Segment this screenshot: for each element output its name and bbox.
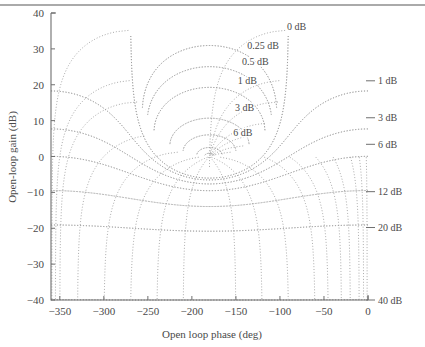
contour-label: 0.5 dB <box>242 56 269 67</box>
x-tick-labels: −350−300−250−200−150−100−500 <box>48 305 371 317</box>
y-axis-title: Open-loop gain (dB) <box>6 111 19 203</box>
n-contour-neg10 <box>351 157 360 299</box>
grid-contours <box>51 30 368 300</box>
x-tick-label: −150 <box>225 305 248 317</box>
axis-spines <box>51 13 368 300</box>
n-contour-neg270 <box>131 157 199 299</box>
contour-label: 1 dB <box>238 75 258 86</box>
n-contour-neg45 <box>290 157 328 299</box>
y-tick-label: −20 <box>27 222 45 234</box>
x-tick-label: 0 <box>365 305 371 317</box>
contour-label: 6 dB <box>233 127 253 138</box>
n-contour-neg150 <box>210 157 236 299</box>
m-contour-mirror-neg3 <box>51 129 368 184</box>
n-contour-neg359 <box>52 30 128 299</box>
n-contour-neg30 <box>316 157 341 299</box>
contour-label: 3 dB <box>378 112 398 123</box>
x-tick-label: −300 <box>92 305 115 317</box>
contour-label: 0.25 dB <box>247 40 279 51</box>
nichols-chart-figure: −350−300−250−200−150−100−500 −40−30−20−1… <box>0 0 425 347</box>
contour-annotations: 0 dB0 dB0.25 dB0.25 dB0.5 dB0.5 dB1 dB1 … <box>233 21 402 305</box>
n-contour-neg240 <box>157 157 207 299</box>
y-tick-labels: −40−30−20−10010203040 <box>27 7 45 306</box>
n-contour-neg350 <box>60 102 137 299</box>
y-tick-label: 40 <box>33 7 45 19</box>
y-tick-label: 20 <box>33 79 45 91</box>
m-contour-neg3 <box>51 129 368 184</box>
y-tick-label: −40 <box>27 294 45 306</box>
m-contour-neg12 <box>51 191 368 207</box>
axis-ticks <box>51 13 368 300</box>
contour-label: 40 dB <box>378 295 403 306</box>
y-tick-label: −30 <box>27 258 45 270</box>
n-contour-neg330 <box>78 136 144 299</box>
n-contour-neg5 <box>359 157 363 299</box>
contour-label: 0 dB <box>287 21 307 32</box>
x-tick-label: −100 <box>269 305 292 317</box>
contour-label: 12 dB <box>378 186 403 197</box>
x-tick-label: −50 <box>315 305 333 317</box>
x-axis-title: Open loop phase (deg) <box>162 328 262 341</box>
x-tick-label: −250 <box>137 305 160 317</box>
n-contour-neg5 <box>210 81 280 156</box>
y-tick-label: 30 <box>33 43 45 55</box>
x-tick-label: −350 <box>48 305 71 317</box>
n-contour-neg20 <box>333 157 350 299</box>
y-tick-label: 10 <box>33 115 45 127</box>
x-tick-label: −200 <box>181 305 204 317</box>
n-contour-neg210 <box>183 157 209 299</box>
m-contour-mirror-neg6 <box>51 156 368 190</box>
contour-label: 20 dB <box>378 222 403 233</box>
n-contour-neg300 <box>104 152 177 299</box>
n-contour-neg90 <box>220 157 288 299</box>
contour-label: 6 dB <box>378 139 398 150</box>
contour-label: 3 dB <box>235 102 255 113</box>
y-tick-label: −10 <box>27 186 45 198</box>
n-contour-neg355 <box>55 81 129 299</box>
nichols-chart-canvas: −350−300−250−200−150−100−500 −40−30−20−1… <box>0 0 425 347</box>
m-contour-neg6 <box>51 156 368 190</box>
page-rule <box>0 4 425 6</box>
axis-spine-left-bottom <box>51 13 368 300</box>
m-contour-mirror-neg12 <box>51 191 368 207</box>
contour-label: 1 dB <box>378 75 398 86</box>
y-tick-label: 0 <box>39 151 45 163</box>
n-contour-neg120 <box>211 157 261 299</box>
n-contour-neg1 <box>366 157 367 299</box>
